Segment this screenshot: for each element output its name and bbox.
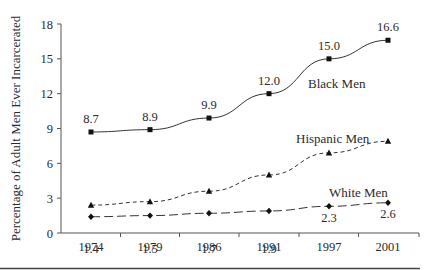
data-label-black: 9.9 bbox=[201, 98, 217, 112]
series-line-white-men bbox=[91, 203, 388, 217]
data-label-black: 8.9 bbox=[142, 110, 158, 124]
data-label-black: 8.7 bbox=[83, 112, 99, 126]
diamond-marker bbox=[147, 212, 153, 218]
data-label-black: 12.0 bbox=[258, 74, 280, 88]
square-marker bbox=[267, 91, 272, 96]
line-chart: Percentage of Adult Men Ever Incarcerate… bbox=[0, 0, 438, 270]
y-tick-label: 18 bbox=[41, 18, 54, 32]
y-tick-label: 3 bbox=[47, 192, 53, 206]
data-label-white: 2.3 bbox=[321, 211, 337, 225]
square-marker bbox=[148, 127, 153, 132]
y-tick-label: 12 bbox=[41, 87, 54, 101]
square-marker bbox=[327, 56, 332, 61]
diamond-marker bbox=[326, 203, 332, 209]
data-label-white: 1.7 bbox=[201, 242, 217, 256]
diamond-marker bbox=[385, 200, 391, 206]
diamond-marker bbox=[266, 208, 272, 214]
diamond-marker bbox=[206, 210, 212, 216]
square-marker bbox=[89, 129, 94, 134]
y-axis-title: Percentage of Adult Men Ever Incarcerate… bbox=[8, 15, 23, 241]
triangle-marker bbox=[385, 138, 391, 144]
x-tick-label: 2001 bbox=[376, 240, 401, 254]
data-label-white: 1.4 bbox=[83, 242, 99, 256]
triangle-marker bbox=[326, 149, 332, 155]
data-label-white: 1.9 bbox=[261, 242, 277, 256]
data-label-white: 1.5 bbox=[142, 242, 158, 256]
triangle-marker bbox=[147, 198, 153, 204]
x-tick-label: 1997 bbox=[317, 240, 342, 254]
y-tick-label: 15 bbox=[41, 52, 54, 66]
series-label-white-men: White Men bbox=[329, 185, 388, 200]
square-marker bbox=[207, 116, 212, 121]
y-axis-label: Percentage of Adult Men Ever Incarcerate… bbox=[8, 15, 23, 241]
data-label-black: 16.6 bbox=[377, 20, 399, 34]
diamond-marker bbox=[88, 214, 94, 220]
y-tick-label: 6 bbox=[47, 157, 53, 171]
y-tick-label: 9 bbox=[47, 122, 53, 136]
data-label-black: 15.0 bbox=[318, 39, 340, 53]
data-labels: 8.78.99.912.015.016.61.41.51.71.92.32.6B… bbox=[83, 20, 399, 256]
square-marker bbox=[386, 38, 391, 43]
y-tick-label: 0 bbox=[47, 227, 53, 241]
data-label-white: 2.6 bbox=[380, 207, 396, 221]
series-label-black-men: Black Men bbox=[308, 76, 366, 91]
series-label-hispanic-men: Hispanic Men bbox=[296, 131, 370, 146]
